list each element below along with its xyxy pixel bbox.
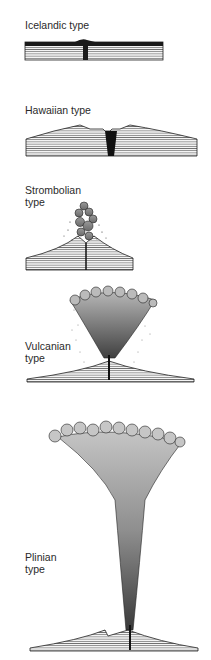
hawaiian-diagram [26,125,197,156]
fissure-vent [83,42,88,60]
strombolian-diagram [26,202,133,270]
eruption-diagrams [0,0,211,660]
plinian-diagram [30,421,198,651]
strombolian-plume [75,202,97,240]
icelandic-diagram [25,39,163,60]
vulcanian-diagram [27,286,194,382]
